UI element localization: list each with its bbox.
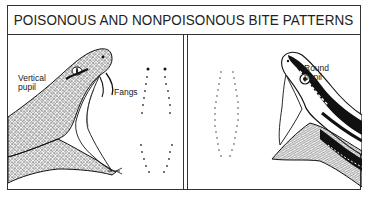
poisonous-bite-pattern (140, 68, 173, 173)
title-band: POISONOUS AND NONPOISONOUS BITE PATTERNS (8, 6, 360, 35)
panel-poisonous: Vertical pupil Fangs (8, 35, 184, 189)
label-vertical-pupil: Vertical pupil (18, 74, 46, 92)
label-round-pupil: Round pupil (304, 64, 329, 82)
fang-puncture-left (147, 68, 150, 71)
figure-frame: POISONOUS AND NONPOISONOUS BITE PATTERNS (7, 5, 361, 190)
figure-title: POISONOUS AND NONPOISONOUS BITE PATTERNS (14, 12, 354, 28)
venomous-snake-illustration (8, 35, 183, 191)
fangs-icon (100, 73, 113, 97)
label-line: pupil (304, 73, 329, 82)
nonpoisonous-bite-pattern (214, 71, 239, 157)
nonvenomous-snake-illustration (188, 35, 362, 191)
fang-puncture-right (164, 68, 167, 71)
label-fangs: Fangs (114, 88, 138, 97)
label-line: pupil (18, 83, 46, 92)
panel-nonpoisonous: Round pupil (187, 35, 360, 189)
